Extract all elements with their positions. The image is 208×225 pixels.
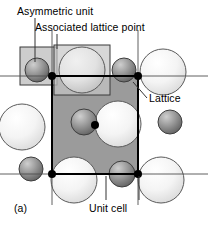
large-atom	[138, 157, 184, 203]
associated-lattice-point-label: Associated lattice point	[35, 22, 145, 33]
associated-lattice-point-marker	[91, 121, 99, 129]
lattice-point	[48, 170, 56, 178]
large-atom	[95, 101, 141, 147]
unit-cell-lattice-diagram	[0, 0, 208, 225]
large-atom	[0, 104, 45, 150]
lattice-point	[134, 72, 142, 80]
lattice-point	[48, 72, 56, 80]
large-atom	[51, 157, 97, 203]
lattice-point	[134, 170, 142, 178]
unit-cell-label: Unit cell	[89, 203, 127, 214]
lattice-label: Lattice	[149, 93, 181, 104]
small-atom	[158, 110, 182, 134]
crystallography-figure-panel-a: Asymmetric unit Associated lattice point…	[0, 0, 208, 225]
large-atom	[140, 49, 186, 95]
small-atom	[112, 58, 136, 82]
small-atom	[19, 157, 43, 181]
asymmetric-unit-label: Asymmetric unit	[17, 6, 93, 17]
panel-label: (a)	[14, 203, 27, 214]
large-atom	[59, 47, 105, 93]
small-atom	[25, 58, 49, 82]
